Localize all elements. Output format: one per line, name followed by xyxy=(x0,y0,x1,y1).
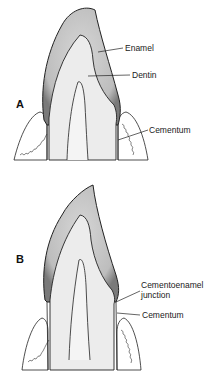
label-cementum-b: Cementum xyxy=(142,310,184,320)
gingiva-right-a xyxy=(118,112,148,160)
gingiva-right-b xyxy=(117,318,141,370)
label-enamel: Enamel xyxy=(125,43,154,53)
label-cementum-a: Cementum xyxy=(149,125,191,135)
gingiva-left-a xyxy=(14,112,47,160)
label-cementoenamel-junction-line2: junction xyxy=(141,290,170,300)
panel-a-tooth xyxy=(14,8,148,160)
panel-b-letter: B xyxy=(16,253,24,265)
panel-b-tooth xyxy=(22,185,141,370)
label-cementoenamel-junction-line1: Cementoenamel xyxy=(141,280,203,290)
gingiva-left-b xyxy=(22,318,48,370)
label-dentin: Dentin xyxy=(132,70,157,80)
panel-a-letter: A xyxy=(16,98,24,110)
diagram-svg xyxy=(0,0,220,375)
tooth-anatomy-figure: A Enamel Dentin Cementum B Cementoenamel… xyxy=(0,0,220,375)
